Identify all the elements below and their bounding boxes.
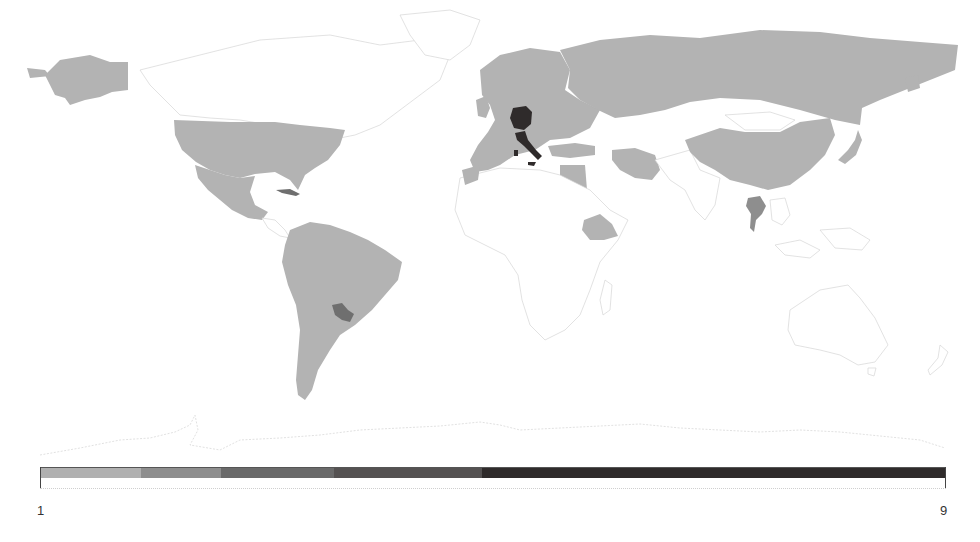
region-alaska[interactable] — [45, 55, 128, 105]
legend-baseline — [40, 488, 946, 489]
legend-segment — [334, 468, 482, 478]
region-cuba[interactable] — [276, 189, 300, 196]
legend-tick-max — [945, 467, 946, 489]
legend-segment — [482, 468, 946, 478]
region-africa[interactable] — [455, 168, 628, 340]
legend-segment — [221, 468, 334, 478]
region-japan[interactable] — [838, 130, 862, 164]
legend-segment — [40, 468, 141, 478]
region-mongolia[interactable] — [725, 112, 795, 130]
legend-gradient-bar — [40, 467, 946, 478]
region-turkey[interactable] — [548, 143, 595, 158]
region-thailand[interactable] — [746, 196, 766, 232]
region-antarctica[interactable] — [40, 415, 945, 455]
region-iran[interactable] — [612, 148, 660, 180]
region-australia[interactable] — [788, 285, 888, 365]
legend-min-label: 1 — [37, 503, 44, 518]
world-map — [0, 0, 980, 460]
region-russia[interactable] — [560, 30, 958, 125]
legend-segment — [141, 468, 221, 478]
legend-tick-min — [40, 467, 41, 489]
color-legend — [40, 467, 946, 479]
region-central-america[interactable] — [262, 218, 290, 238]
legend-max-label: 9 — [940, 503, 947, 518]
